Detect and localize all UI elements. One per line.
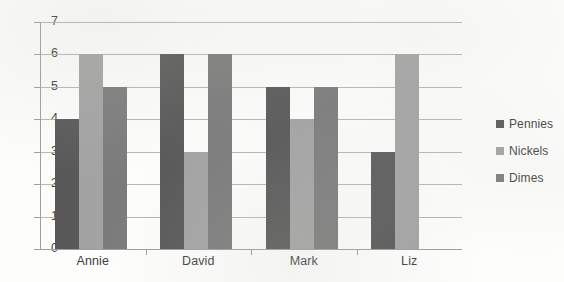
- x-axis-label-david: David: [153, 254, 243, 268]
- y-axis-tick: [34, 184, 40, 185]
- bar-dimes-mark: [314, 87, 338, 249]
- y-axis-line: [40, 22, 41, 249]
- legend-item-pennies[interactable]: Pennies: [496, 110, 562, 137]
- x-axis-tick: [251, 249, 252, 255]
- y-axis-tick: [34, 22, 40, 23]
- bar-group: [371, 22, 443, 249]
- y-axis-tick: [34, 249, 40, 250]
- y-axis-tick: [34, 217, 40, 218]
- legend-item-nickels[interactable]: Nickels: [496, 137, 562, 164]
- y-axis-tick: [34, 87, 40, 88]
- x-axis-label-annie: Annie: [48, 254, 138, 268]
- bar-nickels-liz: [395, 54, 419, 249]
- legend-swatch-nickels-icon: [496, 147, 504, 155]
- bar-group: [55, 22, 127, 249]
- bar-pennies-liz: [371, 152, 395, 249]
- y-axis-tick: [34, 119, 40, 120]
- bar-dimes-annie: [103, 87, 127, 249]
- legend-item-dimes[interactable]: Dimes: [496, 164, 562, 191]
- legend-label: Dimes: [509, 171, 544, 185]
- bar-nickels-david: [184, 152, 208, 249]
- bar-nickels-mark: [290, 119, 314, 249]
- x-axis-label-liz: Liz: [364, 254, 454, 268]
- y-axis-tick: [34, 54, 40, 55]
- bar-pennies-mark: [266, 87, 290, 249]
- x-axis-label-mark: Mark: [259, 254, 349, 268]
- x-axis-tick: [146, 249, 147, 255]
- bar-group: [266, 22, 338, 249]
- bar-nickels-annie: [79, 54, 103, 249]
- plot-area: [40, 22, 462, 249]
- legend-label: Nickels: [509, 144, 548, 158]
- x-axis-tick: [357, 249, 358, 255]
- bar-chart: 01234567 AnnieDavidMarkLiz PenniesNickel…: [0, 0, 564, 282]
- bar-pennies-annie: [55, 119, 79, 249]
- bar-group: [160, 22, 232, 249]
- bar-dimes-david: [208, 54, 232, 249]
- chart-legend: PenniesNickelsDimes: [496, 110, 562, 191]
- legend-label: Pennies: [509, 117, 553, 131]
- legend-swatch-pennies-icon: [496, 120, 504, 128]
- bar-pennies-david: [160, 54, 184, 249]
- legend-swatch-dimes-icon: [496, 174, 504, 182]
- y-axis-tick: [34, 152, 40, 153]
